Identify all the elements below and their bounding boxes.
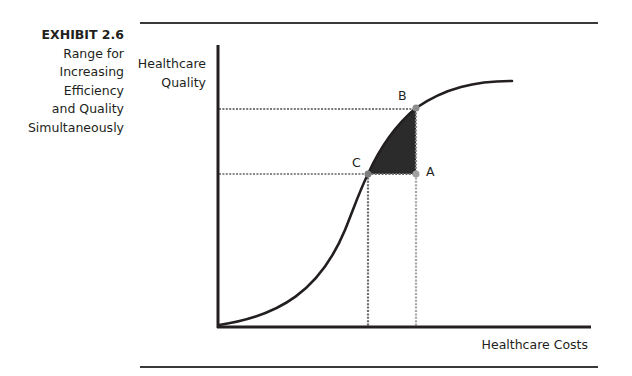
shaded-region	[368, 108, 416, 174]
diagram-plot	[0, 0, 632, 376]
point-a-label: A	[426, 165, 435, 179]
point-b-marker	[413, 105, 420, 112]
point-b-label: B	[398, 89, 407, 103]
point-c-label: C	[352, 156, 361, 170]
point-a-marker	[413, 171, 420, 178]
quality-cost-curve	[219, 81, 512, 325]
point-c-marker	[365, 171, 372, 178]
